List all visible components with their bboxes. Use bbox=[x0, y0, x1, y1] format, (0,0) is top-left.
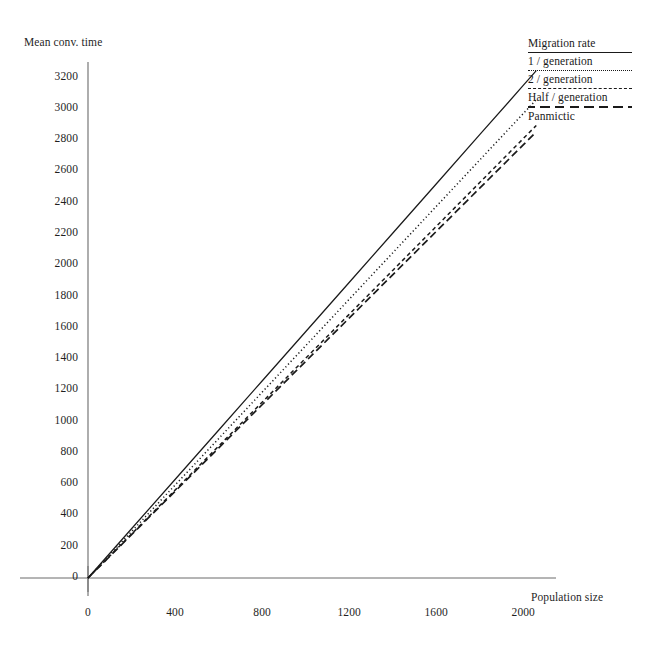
y-tick-label: 2800 bbox=[36, 132, 78, 144]
series-line bbox=[88, 132, 536, 578]
y-tick-label: 800 bbox=[36, 445, 78, 457]
y-tick-label: 2400 bbox=[36, 195, 78, 207]
x-tick-label: 2000 bbox=[503, 606, 543, 618]
y-tick-label: 1400 bbox=[36, 351, 78, 363]
chart-figure: Mean conv. time Population size 02004006… bbox=[0, 0, 647, 660]
x-tick-label: 400 bbox=[155, 606, 195, 618]
y-tick-label: 1800 bbox=[36, 289, 78, 301]
y-tick-label: 2000 bbox=[36, 257, 78, 269]
series-line bbox=[88, 71, 536, 578]
chart-legend: Migration rate 1 / generation2 / generat… bbox=[528, 36, 640, 123]
y-tick-label: 2600 bbox=[36, 163, 78, 175]
y-tick-label: 400 bbox=[36, 507, 78, 519]
y-tick-label: 3000 bbox=[36, 101, 78, 113]
data-series-layer bbox=[88, 71, 536, 578]
legend-entry-label: 2 / generation bbox=[528, 72, 640, 86]
legend-entry-label: 1 / generation bbox=[528, 54, 640, 68]
axis-lines bbox=[20, 62, 556, 596]
x-tick-label: 800 bbox=[242, 606, 282, 618]
legend-title: Migration rate bbox=[528, 36, 640, 50]
series-line bbox=[88, 100, 536, 578]
legend-entry-list: 1 / generation2 / generationHalf / gener… bbox=[528, 52, 640, 123]
y-tick-label: 2200 bbox=[36, 226, 78, 238]
x-tick-label: 1600 bbox=[416, 606, 456, 618]
y-tick-label: 1000 bbox=[36, 414, 78, 426]
legend-entry-label: Half / generation bbox=[528, 90, 640, 104]
y-tick-label: 200 bbox=[36, 539, 78, 551]
y-tick-label: 0 bbox=[36, 570, 78, 582]
y-tick-label: 1600 bbox=[36, 320, 78, 332]
legend-entry-label: Panmictic bbox=[528, 109, 640, 123]
x-axis-title: Population size bbox=[531, 591, 603, 603]
legend-line-sample bbox=[528, 106, 632, 108]
y-tick-label: 1200 bbox=[36, 382, 78, 394]
x-tick-label: 0 bbox=[68, 606, 108, 618]
y-axis-title: Mean conv. time bbox=[24, 36, 102, 48]
y-tick-label: 3200 bbox=[36, 70, 78, 82]
y-tick-label: 600 bbox=[36, 476, 78, 488]
legend-line-sample bbox=[528, 88, 632, 89]
legend-line-sample bbox=[528, 52, 632, 53]
legend-line-sample bbox=[528, 70, 632, 71]
x-tick-label: 1200 bbox=[329, 606, 369, 618]
